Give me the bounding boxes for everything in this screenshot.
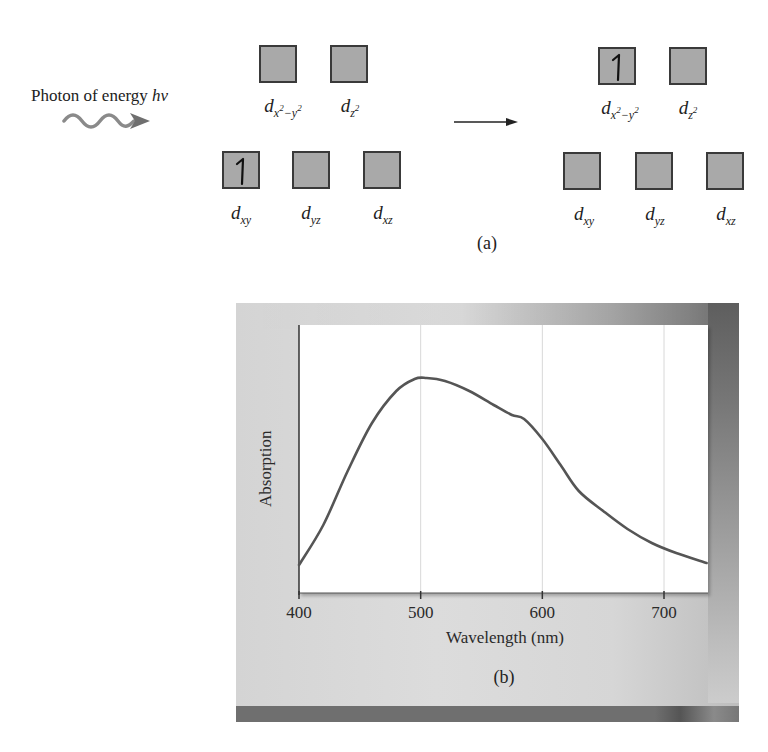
orbital-box-dxy-before — [222, 151, 260, 189]
x-tick-label: 700 — [651, 603, 677, 623]
absorption-curve — [299, 378, 707, 565]
x-tick-label: 600 — [530, 603, 556, 623]
electron-arrow-icon — [610, 52, 624, 82]
orbital-box-dyz-before — [292, 151, 330, 189]
absorption-chart — [299, 325, 708, 595]
vertical-gridlines — [421, 325, 664, 593]
x-tick-label: 500 — [408, 603, 434, 623]
frame-bottom-bar-texture — [655, 706, 739, 722]
orbital-label-dz2-before: dz2 — [341, 95, 360, 121]
orbital-label-dxz-after: dxz — [716, 203, 736, 229]
panel-b-caption: (b) — [494, 667, 515, 688]
orbital-box-dx2y2-before — [259, 45, 297, 83]
panel-a-caption: (a) — [477, 233, 497, 254]
orbital-label-dx2y2-before: dx2−y2 — [264, 95, 301, 121]
orbital-label-dxy-after: dxy — [574, 203, 594, 229]
frame-right-shade — [708, 303, 739, 703]
orbital-label-dx2y2-after: dx2−y2 — [601, 97, 638, 123]
photon-energy-symbol: hv — [152, 86, 168, 105]
x-tick-label: 400 — [286, 603, 312, 623]
x-axis-title: Wavelength (nm) — [446, 628, 564, 648]
photon-label: Photon of energy hv — [31, 86, 168, 106]
orbital-box-dz2-before — [330, 45, 368, 83]
orbital-label-dz2-after: dz2 — [679, 97, 698, 123]
orbital-box-dxy-after — [563, 152, 601, 190]
electron-arrow-icon — [234, 156, 248, 186]
wavy-photon-arrow-icon — [62, 110, 152, 132]
transition-arrow-icon — [454, 117, 518, 127]
orbital-label-dxz-before: dxz — [373, 202, 393, 228]
orbital-label-dyz-after: dyz — [645, 203, 665, 229]
orbital-box-dz2-after — [669, 47, 707, 85]
y-axis-title: Absorption — [256, 431, 276, 508]
orbital-label-dxy-before: dxy — [231, 202, 251, 228]
orbital-box-dx2y2-after — [598, 47, 636, 85]
orbital-box-dyz-after — [635, 152, 673, 190]
orbital-box-dxz-before — [363, 151, 401, 189]
orbital-box-dxz-after — [706, 152, 744, 190]
photon-label-text: Photon of energy — [31, 86, 152, 105]
orbital-label-dyz-before: dyz — [301, 202, 321, 228]
